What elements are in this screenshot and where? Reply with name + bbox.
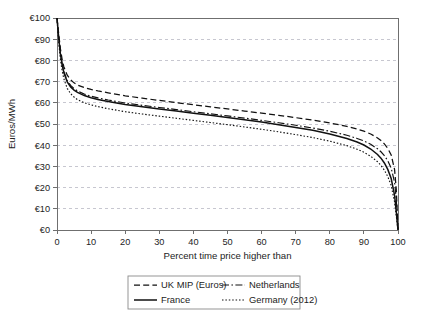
legend-label-germany: Germany (2012) [249,294,317,305]
y-tick-label-0: €0 [40,225,50,235]
x-tick-label-60: 60 [256,237,266,247]
x-tick-label-100: 100 [390,237,405,247]
x-axis-title: Percent time price higher than [164,250,292,261]
y-tick-label-60: €60 [35,98,50,108]
x-tick-label-0: 0 [54,237,59,247]
x-tick-label-40: 40 [188,237,198,247]
x-axis: 0102030405060708090100 [54,230,405,247]
x-tick-label-10: 10 [86,237,96,247]
x-tick-label-80: 80 [325,237,335,247]
chart-figure: €0€10€20€30€40€50€60€70€80€90€100 010203… [0,0,425,325]
y-tick-label-40: €40 [35,141,50,151]
x-tick-label-20: 20 [120,237,130,247]
y-tick-label-30: €30 [35,162,50,172]
legend-label-netherlands: Netherlands [249,279,300,290]
y-tick-label-70: €70 [35,77,50,87]
x-tick-label-30: 30 [154,237,164,247]
y-axis: €0€10€20€30€40€50€60€70€80€90€100 [30,13,57,235]
legend: UK MIP (Euros) Netherlands France German… [128,276,317,309]
y-tick-label-50: €50 [35,119,50,129]
y-axis-title: Euros/MWh [6,99,17,149]
y-tick-label-10: €10 [35,204,50,214]
y-tick-label-20: €20 [35,183,50,193]
legend-label-france: France [161,294,190,305]
y-tick-label-90: €90 [35,35,50,45]
y-tick-label-80: €80 [35,56,50,66]
price-duration-curve-chart: €0€10€20€30€40€50€60€70€80€90€100 010203… [0,0,425,325]
legend-label-uk-mip: UK MIP (Euros) [161,279,226,290]
y-tick-label-100: €100 [30,13,50,23]
x-tick-label-90: 90 [359,237,369,247]
x-tick-label-70: 70 [291,237,301,247]
x-tick-label-50: 50 [222,237,232,247]
